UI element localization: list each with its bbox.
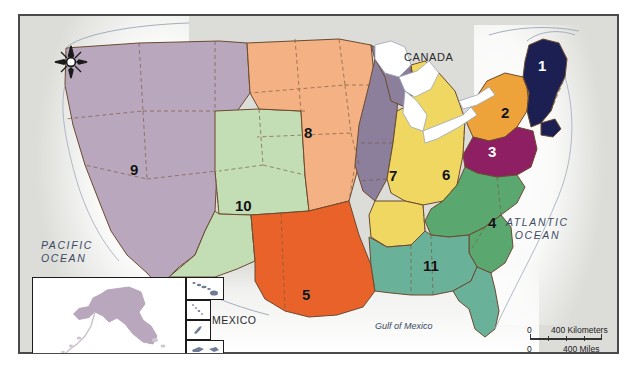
map-frame: CANADA MEXICO PACIFIC OCEAN ATLANTIC OCE… <box>18 14 619 354</box>
scale-mi-zero: 0 <box>527 344 532 354</box>
scale-tick <box>584 336 585 341</box>
island-shape-c <box>187 341 223 354</box>
island-inset-c <box>186 340 224 354</box>
hawaii-islands-shape <box>187 278 223 299</box>
map-figure: CANADA MEXICO PACIFIC OCEAN ATLANTIC OCE… <box>0 0 635 370</box>
island-shape-b <box>187 321 210 339</box>
alaska-shape <box>33 278 185 354</box>
scale-tick <box>530 334 531 339</box>
island-inset-a <box>186 300 211 320</box>
island-chain-shape-a <box>187 301 210 319</box>
scale-tick <box>548 336 549 341</box>
hawaii-inset <box>186 277 224 300</box>
island-inset-b <box>186 320 211 340</box>
scale-mi-max: 400 Miles <box>563 344 599 354</box>
alaska-inset <box>32 277 186 354</box>
scale-bar: 0 400 Kilometers 0 400 Miles <box>525 325 619 354</box>
scale-tick <box>601 334 602 339</box>
region-10-shape <box>215 109 309 215</box>
scale-km-max: 400 Kilometers <box>551 325 608 335</box>
north-arrow-compass-rose <box>52 43 90 81</box>
scale-tick <box>566 336 567 341</box>
